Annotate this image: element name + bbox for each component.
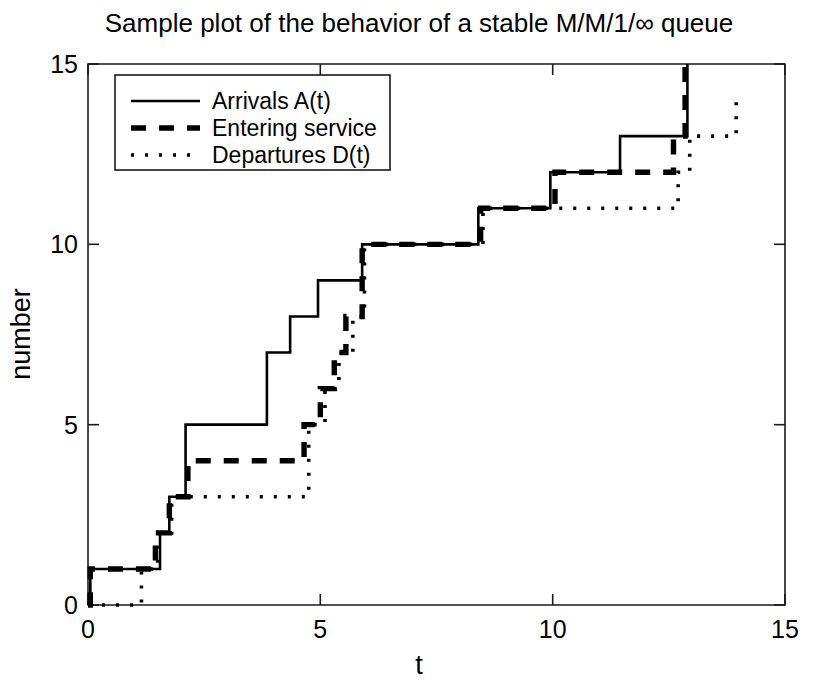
x-axis-tick-labels: 0 5 10 15	[81, 615, 799, 643]
x-tick-label-15: 15	[771, 615, 799, 643]
figure-container: Sample plot of the behavior of a stable …	[0, 0, 838, 682]
y-axis-title: number	[6, 288, 36, 380]
y-tick-label-0: 0	[64, 591, 78, 619]
y-tick-label-15: 15	[50, 50, 78, 78]
y-axis-tick-labels: 0 5 10 15	[50, 50, 78, 619]
legend-label-entering-service: Entering service	[212, 115, 377, 141]
chart-title: Sample plot of the behavior of a stable …	[105, 8, 733, 38]
x-tick-label-10: 10	[539, 615, 567, 643]
legend-label-arrivals: Arrivals A(t)	[212, 88, 331, 114]
series-line-departures	[88, 100, 736, 605]
legend: Arrivals A(t) Entering service Departure…	[115, 75, 390, 170]
y-tick-label-10: 10	[50, 230, 78, 258]
x-tick-label-5: 5	[313, 615, 327, 643]
x-tick-label-0: 0	[81, 615, 95, 643]
legend-label-departures: Departures D(t)	[212, 142, 370, 168]
chart-canvas: Sample plot of the behavior of a stable …	[0, 0, 838, 682]
x-axis-title: t	[415, 650, 423, 680]
y-tick-label-5: 5	[64, 411, 78, 439]
